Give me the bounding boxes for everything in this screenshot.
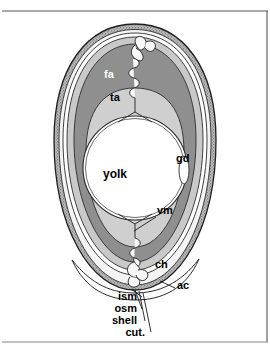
label-gd: gd [176,152,189,164]
label-ch: ch [155,258,168,270]
label-ac: ac [177,279,189,291]
label-cut: cut. [125,326,145,338]
label-fa: fa [104,68,115,80]
figure-canvas: fa ta gd yolk vm ch ac ism osm shell cut… [0,0,270,350]
label-shell: shell [112,314,137,326]
label-ta: ta [110,91,121,103]
label-ism: ism [118,290,137,302]
yolk-body [86,119,185,218]
label-yolk: yolk [103,167,127,181]
label-vm: vm [157,204,173,216]
label-osm: osm [114,302,137,314]
